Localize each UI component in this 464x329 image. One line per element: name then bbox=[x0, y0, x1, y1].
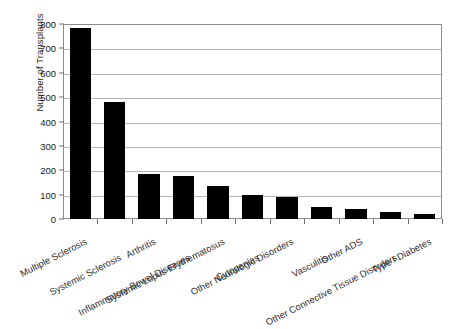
x-tick-label: Inflammatory Bowel Diseases bbox=[18, 253, 191, 329]
x-tick-label: Cytopenias bbox=[26, 253, 261, 329]
bar bbox=[276, 197, 297, 219]
x-tick-mark bbox=[304, 219, 305, 224]
bar bbox=[173, 176, 194, 219]
y-tick-label: 200 bbox=[16, 165, 56, 176]
bar bbox=[104, 102, 125, 219]
y-tick-label: 700 bbox=[16, 43, 56, 54]
x-tick-label: Systemic Lupus Erythematosus bbox=[22, 237, 226, 329]
x-tick-mark bbox=[442, 219, 443, 224]
bar-series bbox=[63, 24, 442, 219]
bar bbox=[138, 174, 159, 219]
x-tick-mark bbox=[201, 219, 202, 224]
x-tick-mark bbox=[408, 219, 409, 224]
y-tick-label: 400 bbox=[16, 116, 56, 127]
bar bbox=[380, 212, 401, 219]
x-tick-label: Vasculitis bbox=[33, 253, 329, 329]
bar bbox=[345, 209, 366, 219]
y-tick-label: 500 bbox=[16, 92, 56, 103]
x-tick-label: Systemic Sclerosis bbox=[11, 253, 123, 317]
x-tick-mark bbox=[132, 219, 133, 224]
bar bbox=[311, 207, 332, 219]
x-tick-mark bbox=[373, 219, 374, 224]
y-tick-label: 100 bbox=[16, 189, 56, 200]
x-tick-label: Multiple Sclerosis bbox=[7, 237, 88, 285]
x-tick-label: Other Neurologic Disorders bbox=[30, 237, 296, 329]
bar bbox=[207, 186, 228, 219]
x-tick-label: Other Connective Tissue Disorders bbox=[41, 253, 399, 329]
x-tick-label: Other ADS bbox=[37, 237, 364, 329]
y-tick-label: 800 bbox=[16, 19, 56, 30]
bar bbox=[70, 28, 91, 219]
x-tick-mark bbox=[270, 219, 271, 224]
x-tick-mark bbox=[166, 219, 167, 224]
bar bbox=[414, 214, 435, 219]
x-tick-label: Arthritis bbox=[15, 237, 158, 316]
x-tick-mark bbox=[97, 219, 98, 224]
x-tick-mark bbox=[235, 219, 236, 224]
x-tick-label: Type I Diabetes bbox=[45, 237, 433, 329]
x-tick-mark bbox=[339, 219, 340, 224]
bar bbox=[242, 195, 263, 219]
y-tick-label: 300 bbox=[16, 140, 56, 151]
y-tick-label: 600 bbox=[16, 67, 56, 78]
y-tick-label: 0 bbox=[16, 214, 56, 225]
